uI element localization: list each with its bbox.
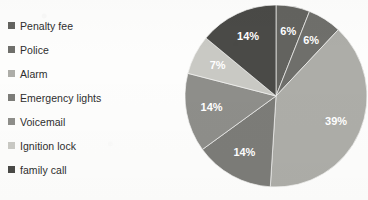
legend-item[interactable]: family call — [8, 158, 133, 181]
legend-item[interactable]: Voicemail — [8, 110, 133, 133]
chart-legend: Penalty feePoliceAlarmEmergency lightsVo… — [8, 14, 133, 182]
pie-chart-svg: 6%6%39%14%14%7%14% — [185, 5, 368, 189]
pie-slice-value-label: 39% — [325, 115, 347, 127]
legend-swatch-icon — [8, 142, 15, 149]
legend-item-label: Police — [20, 44, 49, 56]
chart-canvas: Penalty feePoliceAlarmEmergency lightsVo… — [0, 0, 368, 200]
legend-swatch-icon — [8, 70, 15, 77]
pie-slice-value-label: 14% — [201, 101, 223, 113]
legend-swatch-icon — [8, 46, 15, 53]
legend-item[interactable]: Penalty fee — [8, 14, 133, 37]
pie-chart: 6%6%39%14%14%7%14% — [185, 5, 368, 189]
legend-item-label: Penalty fee — [20, 20, 73, 32]
legend-item-label: family call — [20, 164, 67, 176]
pie-slice-value-label: 14% — [237, 30, 259, 42]
legend-item[interactable]: Police — [8, 38, 133, 61]
legend-item-label: Alarm — [20, 68, 48, 80]
legend-swatch-icon — [8, 166, 15, 173]
legend-swatch-icon — [8, 94, 15, 101]
pie-slice-value-label: 7% — [210, 59, 226, 71]
legend-item[interactable]: Emergency lights — [8, 86, 133, 109]
legend-item[interactable]: Alarm — [8, 62, 133, 85]
legend-item-label: Voicemail — [20, 116, 65, 128]
pie-slice-value-label: 14% — [233, 146, 255, 158]
legend-swatch-icon — [8, 22, 15, 29]
pie-slice-value-label: 6% — [303, 34, 319, 46]
legend-item-label: Emergency lights — [20, 92, 101, 104]
legend-item-label: Ignition lock — [20, 140, 76, 152]
legend-item[interactable]: Ignition lock — [8, 134, 133, 157]
legend-swatch-icon — [8, 118, 15, 125]
pie-slice-group — [185, 5, 367, 187]
pie-slice-value-label: 6% — [280, 25, 296, 37]
